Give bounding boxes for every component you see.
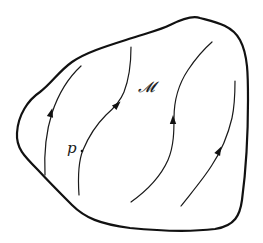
manifold-label: 𝓜	[138, 80, 155, 95]
arrowhead-icon	[170, 115, 176, 124]
flow-curve-2	[78, 47, 131, 195]
point-p-dot	[81, 150, 84, 153]
point-label: p	[67, 141, 77, 156]
arrowhead-icon	[47, 107, 56, 117]
flow-curve-4	[181, 81, 235, 206]
manifold-boundary	[17, 17, 248, 231]
manifold-diagram	[0, 0, 263, 243]
